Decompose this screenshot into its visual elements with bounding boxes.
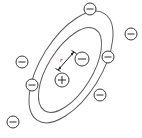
orbits-group [12,0,130,136]
radius-label: r [60,56,63,64]
outer-orbit [12,0,130,136]
radius-dimension: r [56,51,77,72]
electron-right-outer [125,28,137,40]
electron-left-inner [26,79,38,91]
electron-lower-right-inner [94,89,106,101]
nucleus [55,73,69,87]
inner-orbit [26,18,114,123]
electron-bottom-outer [7,116,19,128]
electron-left-outer [16,56,28,68]
atom-diagram: r [0,0,142,138]
electron-upper-left-outer [84,3,96,15]
atom-diagram-canvas: r [0,0,142,138]
electron-right-inner [102,51,114,63]
electron-radius-target [75,52,89,66]
